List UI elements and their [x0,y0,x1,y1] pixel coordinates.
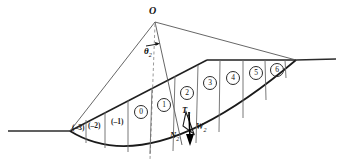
theta-symbol: θ2 [144,47,152,58]
slice-label-6: 6 [270,63,284,77]
slice-label-neg3: (–3) [72,124,85,132]
radius-line-slice2 [155,22,182,145]
radius-line-right [155,22,296,60]
normal-force-label: N2 [170,131,179,142]
weight-force-symbol: W [196,121,204,131]
slice-divider [219,60,220,132]
slice-label-neg2: (–2) [88,122,101,130]
theta-subscript: 2 [149,52,152,58]
weight-force-label: W2 [196,122,207,133]
weight-force-subscript: 2 [204,127,207,133]
slice-label-1: 1 [157,98,171,112]
tension-force-label: T2 [182,106,190,117]
slice-label-4: 4 [226,71,240,85]
slope-stability-figure: O θ2 (–3) (–2) (–1) 0 1 2 3 4 5 6 T2 W2 … [0,0,344,167]
slice-label-6-text: 6 [275,66,279,74]
slice-label-5-text: 5 [254,69,258,77]
normal-force-subscript: 2 [176,136,179,142]
slice-label-4-text: 4 [231,74,235,82]
slice-divider [265,60,266,100]
slice-label-0-text: 0 [139,108,143,116]
slice-label-3-text: 3 [208,79,212,87]
weight-vector-arrowhead [186,134,194,146]
slice-label-3: 3 [203,76,217,90]
tension-force-subscript: 2 [187,111,190,117]
slice-divider [150,88,152,154]
slice-label-1-text: 1 [162,101,166,109]
figure-canvas [0,0,344,167]
slice-label-2: 2 [180,86,194,100]
theta-angle-label: θ2 [144,47,152,58]
slice-divider [285,60,286,78]
apex-label-o: O [149,6,156,16]
slice-label-neg1: (–1) [111,118,124,126]
slice-label-5: 5 [249,66,263,80]
slice-label-2-text: 2 [185,89,189,97]
ground-line-right [296,59,336,60]
slice-label-0: 0 [134,105,148,119]
